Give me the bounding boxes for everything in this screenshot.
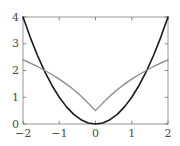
y-tick-label-3: 3 bbox=[5, 38, 19, 49]
y-tick-label-1: 1 bbox=[5, 92, 19, 103]
x-tick-label-2: 0 bbox=[88, 128, 104, 139]
chart-figure: 01234 −2−1012 bbox=[0, 0, 180, 146]
x-tick-label-4: 2 bbox=[160, 128, 176, 139]
y-tick-label-2: 2 bbox=[5, 65, 19, 76]
plot-canvas bbox=[0, 0, 180, 146]
x-tick-label-3: 1 bbox=[124, 128, 140, 139]
x-tick-label-0: −2 bbox=[15, 128, 31, 139]
x-tick-label-1: −1 bbox=[51, 128, 67, 139]
y-tick-label-4: 4 bbox=[5, 12, 19, 23]
